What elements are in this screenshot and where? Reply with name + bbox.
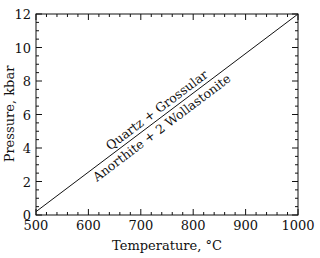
x-tick-label: 1000 (281, 218, 314, 233)
x-tick-labels: 5006007008009001000 (24, 218, 315, 233)
y-tick-label: 0 (23, 208, 31, 223)
x-tick-label: 800 (181, 218, 206, 233)
x-axis-label: Temperature, °C (112, 238, 222, 253)
y-tick-label: 2 (23, 175, 31, 190)
annotation-anorthite-wollastonite: Anorthite + 2 Wollastonite (89, 71, 234, 185)
x-tick-label: 700 (128, 218, 153, 233)
y-tick-label: 6 (23, 108, 31, 123)
x-tick-label: 600 (76, 218, 101, 233)
y-tick-label: 8 (23, 74, 31, 89)
x-tick-label: 900 (233, 218, 258, 233)
chart: 5006007008009001000 024681012 Temperatur… (0, 0, 320, 258)
y-axis-label: Pressure, kbar (2, 65, 17, 162)
y-tick-label: 4 (23, 141, 31, 156)
y-tick-label: 12 (14, 7, 31, 22)
y-tick-label: 10 (14, 41, 31, 56)
reaction-line (36, 14, 298, 212)
